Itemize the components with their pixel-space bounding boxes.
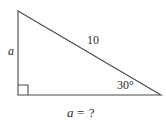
label-vertical-side: a	[8, 45, 14, 57]
triangle-outline	[18, 11, 161, 95]
question-operator: =	[77, 105, 85, 120]
right-triangle-figure: a 10 30° a=?	[0, 0, 166, 125]
label-angle-measure: 30°	[117, 79, 134, 91]
label-hypotenuse-length: 10	[87, 34, 99, 46]
right-angle-marker-icon	[18, 85, 28, 95]
question-variable: a	[67, 105, 74, 120]
question-mark: ?	[89, 105, 95, 120]
question-caption: a=?	[67, 106, 95, 119]
